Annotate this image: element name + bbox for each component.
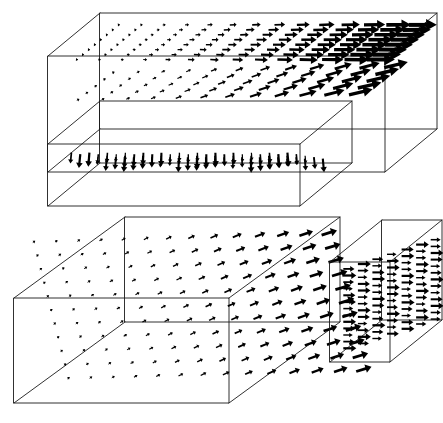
vector-field-canvas [0,0,443,423]
upper-front-plane-arrow-3-9-shaft [260,157,261,167]
upper-front-plane-arrow-0-0-shaft [71,153,72,161]
upper-front-plane-arrow-3-0-shaft [97,157,98,163]
upper-front-plane-arrow-4-11-shaft [305,159,306,168]
upper-front-plane-arrow-2-0-shaft [88,156,89,163]
upper-front-plane-arrow-1-0-shaft [79,154,80,164]
upper-front-plane-arrow-3-1-shaft [115,157,116,166]
upper-front-plane-arrow-3-12-shaft [314,157,315,166]
upper-front-plane-arrow-3-10-shaft [278,157,279,165]
upper-front-plane-arrow-4-12-shaft [323,159,324,169]
upper-front-plane-arrow-4-0-shaft [106,159,107,168]
upper-front-plane-arrow-3-2-shaft [133,157,134,167]
figure-root [0,0,443,423]
upper-front-plane-arrow-3-11-shaft [296,157,297,163]
upper-front-plane-arrow-4-1-shaft [124,159,125,169]
